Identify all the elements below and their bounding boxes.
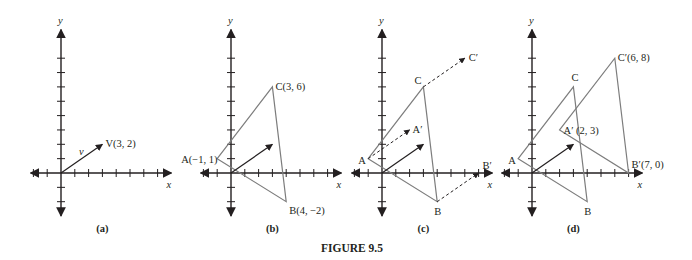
panel-a: xyvV(3, 2)(a) — [31, 15, 172, 236]
point-label: A(−1, 1) — [181, 154, 218, 166]
point-label: C — [571, 72, 578, 83]
point-label: A — [358, 155, 366, 166]
vector-v — [382, 144, 423, 173]
figure-caption: FIGURE 9.5 — [321, 242, 383, 254]
vector-v — [231, 144, 272, 173]
y-axis-label: y — [378, 15, 384, 26]
point-label: B′(7, 0) — [632, 159, 665, 171]
panel-label: (c) — [418, 223, 430, 235]
vector-label: V(3, 2) — [105, 138, 136, 150]
translation-arrow — [437, 173, 478, 202]
point-label: C(3, 6) — [275, 81, 305, 93]
triangle — [217, 87, 286, 202]
panel-label: (b) — [266, 223, 279, 235]
y-axis-label: y — [57, 15, 63, 26]
vector-name: v — [79, 146, 84, 157]
point-label: B — [434, 206, 441, 217]
triangle — [518, 87, 587, 202]
point-label: C′ — [469, 52, 478, 63]
panel-label: (d) — [567, 223, 580, 235]
translation-arrow — [368, 130, 409, 159]
point-label: B(4, −2) — [289, 205, 325, 217]
point-label: A′ (2, 3) — [564, 125, 600, 137]
point-label: B′ — [483, 160, 492, 171]
x-axis-label: x — [335, 179, 341, 190]
triangle — [560, 58, 629, 173]
panel-b: xyA(−1, 1)C(3, 6)B(4, −2)(b) — [181, 15, 341, 236]
panel-d: xyACBA′ (2, 3)B′(7, 0)C′(6, 8)(d) — [502, 15, 665, 236]
x-axis-label: x — [165, 179, 171, 190]
y-axis-label: y — [528, 15, 534, 26]
panel-c: xyACBA′B′C′(c) — [352, 15, 493, 236]
triangle — [368, 87, 437, 202]
translation-arrow — [423, 58, 464, 87]
x-axis-label: x — [486, 179, 492, 190]
point-label: B — [584, 206, 591, 217]
y-axis-label: y — [227, 15, 233, 26]
point-label: C — [414, 75, 421, 86]
point-label: A — [508, 155, 516, 166]
x-axis-label: x — [636, 179, 642, 190]
panel-label: (a) — [96, 223, 109, 235]
point-label: A′ — [413, 124, 423, 135]
figure-9-5: xyvV(3, 2)(a) xyA(−1, 1)C(3, 6)B(4, −2)(… — [0, 0, 692, 260]
vector-v — [532, 144, 573, 173]
point-label: C′(6, 8) — [618, 52, 651, 64]
